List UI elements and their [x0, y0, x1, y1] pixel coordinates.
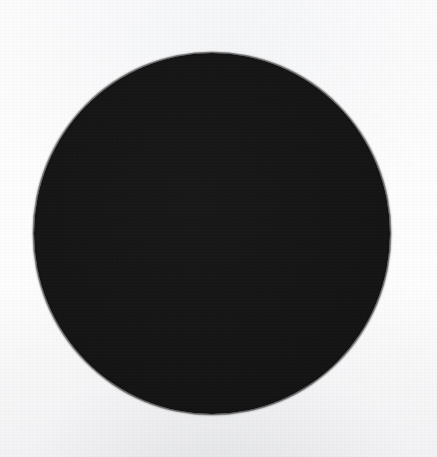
filled-circle-shape: [34, 53, 390, 414]
figure-canvas: [0, 0, 437, 457]
circle-grain-texture: [34, 53, 390, 414]
